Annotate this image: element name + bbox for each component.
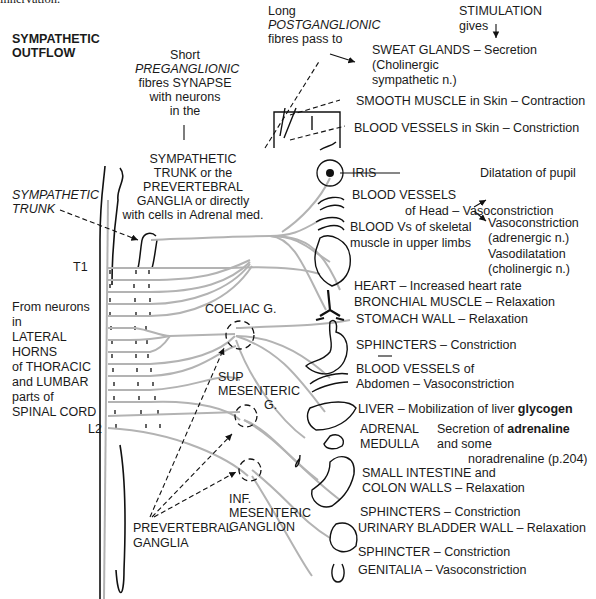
iris-illustration: [317, 160, 343, 186]
effect-heart: HEART – Increased heart rate: [354, 279, 522, 293]
effect-blood-vessels-head: BLOOD VESSELS: [352, 188, 456, 202]
effect-abdomen-vessels-2: Abdomen – Vasoconstriction: [356, 377, 514, 391]
effect-skeletal-vessels-2: muscle in upper limbs: [350, 236, 471, 250]
effect-blood-vessels-skin: BLOOD VESSELS in Skin – Constriction: [354, 121, 579, 135]
l2-label: L2: [88, 422, 102, 436]
prevertebral-ganglia-label-2: GANGLIA: [133, 536, 189, 550]
inf-mesenteric-label-1: INF.: [229, 492, 251, 506]
cut-off-text: innervation.: [0, 0, 60, 6]
effect-adrenal-and-some: and some: [437, 437, 492, 451]
effect-adrenergic-note: (adrenergic n.): [488, 231, 569, 245]
sympathetic-trunk-chain: [138, 233, 157, 268]
t1-label: T1: [73, 260, 88, 274]
sup-mesenteric-label-1: SUP: [218, 370, 244, 384]
sympathetic-trunk-label: SYMPATHETIC: [12, 188, 99, 202]
stomach-illustration: [306, 320, 347, 373]
sup-mesenteric-label-2: MESENTERIC: [218, 384, 300, 398]
effect-intestinal-sphincters: SPHINCTERS – Constriction: [360, 505, 521, 519]
effect-smooth-muscle-skin: SMOOTH MUSCLE in Skin – Contraction: [356, 94, 585, 108]
effect-genitalia: GENITALIA – Vasoconstriction: [358, 563, 526, 577]
prevertebral-ganglia-label-1: PREVERTEBRAL: [133, 521, 233, 535]
effect-sweat-glands: SWEAT GLANDS – Secretion: [372, 43, 537, 57]
bronchi-illustration: [316, 290, 344, 320]
effect-bladder-sphincter: SPHINCTER – Constriction: [358, 545, 510, 559]
page-title-line1: SYMPATHETIC: [12, 32, 100, 46]
page-title-line2: OUTFLOW: [12, 46, 75, 60]
skin-illustration: [274, 108, 340, 150]
effect-abdomen-vessels-1: BLOOD VESSELS of: [356, 362, 474, 376]
effect-noradrenaline: noradrenaline (p.204): [468, 452, 588, 466]
liver-illustration: [308, 402, 356, 430]
effect-sweat-note-2: sympathetic n.): [372, 73, 457, 87]
heart-illustration: [315, 236, 350, 286]
bladder-illustration: [330, 523, 357, 552]
effect-urinary-bladder: URINARY BLADDER WALL – Relaxation: [358, 521, 586, 535]
effect-adrenal-2: MEDULLA: [360, 437, 419, 451]
effect-cholinergic-note: (cholinergic n.): [488, 262, 570, 276]
effect-adrenal-1: ADRENAL: [360, 422, 419, 436]
inf-mesenteric-label-2: MESENTERIC: [229, 506, 311, 520]
sympathetic-trunk-label-2: TRUNK: [12, 202, 55, 216]
genitalia-illustration: [332, 564, 344, 582]
effect-stomach-sphincters: SPHINCTERS – Constriction: [356, 338, 517, 352]
effect-stomach-wall: STOMACH WALL – Relaxation: [356, 312, 528, 326]
effect-iris: IRIS: [352, 166, 376, 180]
effect-vasoconstriction-adrenergic: Vasoconstriction: [488, 216, 579, 230]
inf-mesenteric-label-3: GANGLION: [229, 520, 295, 534]
effect-vasodilatation-cholinergic: Vasodilatation: [488, 247, 566, 261]
effect-small-intestine-2: COLON WALLS – Relaxation: [362, 481, 525, 495]
effect-liver: LIVER – Mobilization of liver glycogen: [358, 402, 573, 416]
adrenal-illustration: [324, 435, 343, 449]
effect-small-intestine-1: SMALL INTESTINE and: [362, 466, 496, 480]
chain-dashes: [110, 270, 160, 428]
effect-skeletal-vessels-1: BLOOD Vs of skeletal: [350, 220, 472, 234]
effect-adrenal-secretion: Secretion of adrenaline: [437, 422, 570, 436]
effect-bronchial-muscle: BRONCHIAL MUSCLE – Relaxation: [354, 295, 555, 309]
effect-sweat-note-1: (Cholinergic: [372, 58, 439, 72]
effect-iris-result: Dilatation of pupil: [480, 166, 576, 180]
coeliac-ganglion-label: COELIAC G.: [205, 302, 277, 316]
sup-mesenteric-label-3: G.: [264, 398, 277, 412]
